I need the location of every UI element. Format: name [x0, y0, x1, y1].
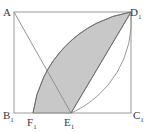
figure-canvas [0, 0, 149, 132]
geometry-figure: A D1 B1 F1 E1 C1 [0, 0, 149, 132]
vertex-label-c1: C1 [133, 110, 144, 124]
vertex-label-f1: F1 [27, 117, 37, 131]
vertex-label-d1: D1 [130, 7, 141, 21]
shaded-lens-region [33, 12, 131, 113]
vertex-label-b1: B1 [3, 110, 14, 124]
vertex-label-e1: E1 [64, 117, 74, 131]
vertex-label-a: A [3, 7, 11, 21]
